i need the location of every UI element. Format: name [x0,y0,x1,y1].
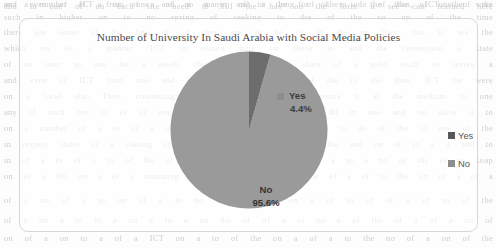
data-label-yes-category: Yes [289,90,306,103]
legend-item-yes[interactable]: Yes [448,129,473,141]
bleed-line: on a number of a to of a of no a in of t… [0,0,497,9]
legend-swatch-no [448,160,455,167]
data-label-yes-swatch [277,93,284,100]
bleed-line: on of a on to a of a ICT on a to of the … [0,234,497,243]
data-label-no-category: No [223,183,309,196]
data-label-yes: Yes 4.4% [277,90,339,115]
bleed-line: and even of ICT from one and a many and … [0,0,497,9]
screenshot-root: and in one of on each site need to fill … [0,0,497,248]
bleed-line: and in one of on each site need to fill … [0,2,497,11]
legend-label-no: No [458,158,470,169]
legend-label-yes: Yes [458,130,473,141]
chart-title: Number of University In Saudi Arabia wit… [20,31,477,43]
chart-frame: Number of University In Saudi Arabia wit… [19,18,478,232]
data-label-no-value: 95.6% [223,196,309,209]
chart-legend: Yes No [448,129,473,169]
legend-swatch-yes [448,132,455,139]
data-label-yes-value: 4.4% [277,103,339,116]
data-label-no: No 95.6% [223,183,309,209]
legend-item-no[interactable]: No [448,157,473,169]
